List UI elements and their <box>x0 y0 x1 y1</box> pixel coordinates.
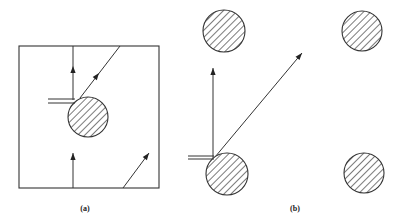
diagram-figure <box>0 0 403 220</box>
diagonal-ray-top-line <box>80 46 120 98</box>
panel-b-label: (b) <box>290 205 300 213</box>
panel-a-label: (a) <box>80 205 89 213</box>
panel-a-unit-cell <box>19 46 159 188</box>
arrowhead-icon <box>143 153 149 160</box>
panel-b-lattice <box>188 10 384 195</box>
arrowhead-icon <box>210 68 215 75</box>
hatched-circle <box>342 11 382 51</box>
hatched-circle <box>344 153 384 193</box>
arrowhead-icon <box>70 153 75 160</box>
arrowhead-icon <box>93 73 99 80</box>
hatched-circle <box>203 10 245 52</box>
diagonal-ray-line <box>215 53 302 157</box>
arrowhead-icon <box>70 66 75 73</box>
